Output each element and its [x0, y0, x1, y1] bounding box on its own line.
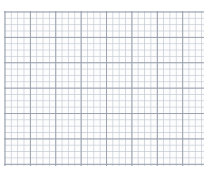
figure-overlay [0, 0, 210, 170]
reflection-figure [0, 0, 210, 170]
